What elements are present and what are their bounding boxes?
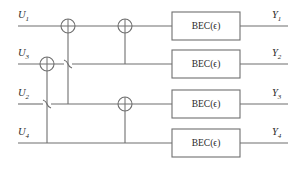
- output-label-3: Y3: [272, 88, 281, 101]
- bec-box-row-3[interactable]: BEC(ϵ): [172, 90, 240, 118]
- xor-gate-row1-a[interactable]: [61, 19, 75, 33]
- input-label-1: U1: [18, 10, 29, 23]
- xor-gate-row3-a[interactable]: [118, 97, 132, 111]
- bec-box-row-1[interactable]: BEC(ϵ): [172, 12, 240, 40]
- circuit-svg: BEC(ϵ) BEC(ϵ) BEC(ϵ) BEC(ϵ): [0, 0, 301, 176]
- circuit-diagram-canvas: BEC(ϵ) BEC(ϵ) BEC(ϵ) BEC(ϵ) U1 U3 U2 U4 …: [0, 0, 301, 176]
- input-label-4: U4: [18, 127, 29, 140]
- output-label-4: Y4: [272, 127, 281, 140]
- bec-box-label-2: BEC(ϵ): [192, 59, 221, 70]
- bec-box-row-2[interactable]: BEC(ϵ): [172, 50, 240, 78]
- wire-row-2: [18, 60, 288, 68]
- xor-gate-row1-b[interactable]: [118, 19, 132, 33]
- bec-box-label-3: BEC(ϵ): [192, 99, 221, 110]
- output-label-2: Y2: [272, 48, 281, 61]
- output-label-1: Y1: [272, 10, 281, 23]
- input-label-3: U2: [18, 88, 29, 101]
- bec-box-label-1: BEC(ϵ): [192, 21, 221, 32]
- xor-gate-row2-a[interactable]: [40, 57, 54, 71]
- bec-box-label-4: BEC(ϵ): [192, 138, 221, 149]
- wire-row-3: [18, 100, 288, 108]
- input-label-2: U3: [18, 48, 29, 61]
- bec-box-row-4[interactable]: BEC(ϵ): [172, 129, 240, 157]
